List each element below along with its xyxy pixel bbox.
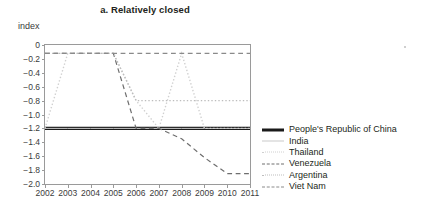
y-axis-tick-label: −1.0 bbox=[23, 110, 40, 120]
x-axis-tick-label: 2006 bbox=[127, 188, 146, 198]
legend-item[interactable]: Argentina bbox=[262, 170, 434, 181]
scan-speck bbox=[404, 46, 406, 48]
y-axis-tick-labels: 0−0.2−0.4−0.6−0.8−1.0−1.2−1.4−1.6−1.8−2.… bbox=[0, 44, 40, 185]
y-axis-tick-mark bbox=[42, 128, 45, 129]
y-axis-tick-label: −0.6 bbox=[23, 82, 40, 92]
legend-item-label: Thailand bbox=[289, 147, 324, 158]
y-axis-tick-mark bbox=[42, 142, 45, 143]
x-axis-tick-label: 2004 bbox=[81, 188, 100, 198]
legend-item[interactable]: India bbox=[262, 135, 434, 146]
y-axis-tick-label: −1.8 bbox=[23, 165, 40, 175]
legend-item-label: Viet Nam bbox=[289, 181, 326, 192]
legend-line-swatch-icon bbox=[262, 125, 284, 135]
y-axis-tick-mark bbox=[42, 115, 45, 116]
y-axis-tick-mark bbox=[42, 59, 45, 60]
chart-root: a. Relatively closed index 0−0.2−0.4−0.6… bbox=[0, 0, 434, 218]
x-axis-tick-label: 2009 bbox=[195, 188, 214, 198]
y-axis-tick-mark bbox=[42, 170, 45, 171]
series-line bbox=[45, 53, 250, 128]
legend-line-swatch-icon bbox=[262, 159, 284, 169]
x-axis-tick-label: 2007 bbox=[149, 188, 168, 198]
y-axis-tick-label: −0.2 bbox=[23, 54, 40, 64]
y-axis-label: index bbox=[18, 21, 40, 31]
series-lines-svg bbox=[45, 45, 250, 184]
y-axis-tick-mark bbox=[42, 73, 45, 74]
legend-line-swatch-icon bbox=[262, 136, 284, 146]
legend-item-label: Venezuela bbox=[289, 158, 331, 169]
y-axis-tick-mark bbox=[42, 45, 45, 46]
x-axis-tick-labels: 2002200320042005200620072008200920102011 bbox=[44, 188, 251, 208]
y-axis-tick-label: 0 bbox=[35, 40, 40, 50]
y-axis-tick-label: −0.4 bbox=[23, 68, 40, 78]
x-axis-tick-label: 2002 bbox=[36, 188, 55, 198]
x-axis-tick-label: 2011 bbox=[241, 188, 259, 198]
y-axis-tick-label: −1.6 bbox=[23, 151, 40, 161]
legend-item-label: Argentina bbox=[289, 170, 328, 181]
plot-area bbox=[44, 44, 251, 185]
legend-item-label: India bbox=[289, 136, 309, 147]
chart-legend: People's Republic of ChinaIndiaThailandV… bbox=[262, 124, 434, 192]
legend-item[interactable]: People's Republic of China bbox=[262, 124, 434, 135]
x-axis-tick-label: 2010 bbox=[218, 188, 237, 198]
y-axis-tick-mark bbox=[42, 156, 45, 157]
y-axis-tick-mark bbox=[42, 101, 45, 102]
y-axis-tick-mark bbox=[42, 87, 45, 88]
y-axis-tick-label: −1.4 bbox=[23, 137, 40, 147]
x-axis-tick-label: 2003 bbox=[58, 188, 77, 198]
legend-item[interactable]: Venezuela bbox=[262, 158, 434, 169]
legend-item[interactable]: Thailand bbox=[262, 147, 434, 158]
y-axis-tick-label: −1.2 bbox=[23, 123, 40, 133]
series-line bbox=[45, 53, 250, 100]
legend-line-swatch-icon bbox=[262, 147, 284, 157]
x-axis-tick-label: 2008 bbox=[172, 188, 191, 198]
legend-line-swatch-icon bbox=[262, 170, 284, 180]
plot-lines-container bbox=[45, 45, 250, 184]
legend-item[interactable]: Viet Nam bbox=[262, 181, 434, 192]
legend-item-label: People's Republic of China bbox=[289, 124, 397, 135]
y-axis-tick-label: −0.8 bbox=[23, 96, 40, 106]
x-axis-tick-label: 2005 bbox=[104, 188, 123, 198]
legend-line-swatch-icon bbox=[262, 182, 284, 192]
chart-title: a. Relatively closed bbox=[0, 4, 290, 15]
